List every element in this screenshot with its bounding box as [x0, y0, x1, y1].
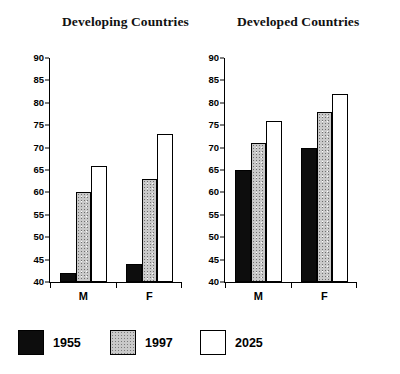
y-tick-label-developed-45: 45: [208, 255, 219, 265]
y-tick-label-developed-90: 90: [208, 53, 219, 63]
bar-developed-m-2025: [266, 121, 282, 282]
chart-title-developed: Developed Countries: [237, 14, 359, 30]
y-tick-label-developing-65: 65: [33, 165, 44, 175]
x-axis-labels-developed: MF: [225, 290, 357, 306]
bar-group-developing-f: [116, 58, 182, 282]
bar-group-developed-m: [225, 58, 291, 282]
y-tick-mark-developed-55: [220, 214, 224, 215]
x-tick-mark-developing-1: [116, 283, 117, 288]
plot-area-developing: 4045505560657075808590 MF: [22, 58, 185, 290]
x-tick-label-developed-f: F: [321, 290, 328, 302]
y-tick-label-developing-75: 75: [33, 120, 44, 130]
legend-item-2025: 2025: [200, 330, 263, 355]
bar-developed-m-1997: [251, 143, 267, 282]
y-tick-label-developed-70: 70: [208, 143, 219, 153]
chart-panel-developing: 4045505560657075808590 MF: [22, 58, 185, 290]
y-tick-label-developing-85: 85: [33, 76, 44, 86]
x-tick-mark-developed-1: [291, 283, 292, 288]
legend-item-1955: 1955: [18, 330, 81, 355]
y-tick-mark-developing-55: [45, 214, 49, 215]
x-tick-mark-developing-2: [181, 283, 182, 288]
chart-legend: 1955 1997 2025: [0, 330, 400, 360]
legend-swatch-1997: [110, 330, 136, 355]
y-tick-mark-developing-45: [45, 259, 49, 260]
legend-swatch-2025: [200, 330, 226, 355]
y-tick-label-developing-45: 45: [33, 255, 44, 265]
bar-developed-m-1955: [235, 170, 251, 282]
chart-titles-row: Developing Countries Developed Countries: [0, 14, 400, 34]
x-tick-label-developing-m: M: [79, 290, 88, 302]
x-tick-mark-developed-2: [356, 283, 357, 288]
plot-area-developed: 4045505560657075808590 MF: [197, 58, 360, 290]
y-tick-mark-developed-70: [220, 147, 224, 148]
bar-developed-f-1997: [317, 112, 333, 282]
y-tick-mark-developed-75: [220, 125, 224, 126]
y-tick-label-developed-50: 50: [208, 232, 219, 242]
bar-developing-m-1955: [60, 273, 76, 282]
y-tick-label-developing-50: 50: [33, 232, 44, 242]
bar-developing-f-1997: [142, 179, 158, 282]
y-tick-label-developing-55: 55: [33, 210, 44, 220]
y-axis-labels-developing: 4045505560657075808590: [22, 58, 44, 290]
y-tick-mark-developed-40: [220, 282, 224, 283]
y-tick-mark-developed-50: [220, 237, 224, 238]
y-tick-mark-developing-85: [45, 80, 49, 81]
y-tick-label-developing-40: 40: [33, 277, 44, 287]
legend-swatch-1955: [18, 330, 44, 355]
x-tick-label-developing-f: F: [146, 290, 153, 302]
y-tick-mark-developed-65: [220, 170, 224, 171]
bar-developing-m-1997: [76, 192, 92, 282]
chart-panel-developed: 4045505560657075808590 MF: [197, 58, 360, 290]
x-axis-labels-developing: MF: [50, 290, 182, 306]
y-tick-label-developed-55: 55: [208, 210, 219, 220]
bar-developing-m-2025: [91, 166, 107, 282]
legend-label-2025: 2025: [235, 336, 263, 350]
y-tick-mark-developed-90: [220, 58, 224, 59]
bar-developed-f-2025: [332, 94, 348, 282]
y-tick-label-developing-70: 70: [33, 143, 44, 153]
bar-developing-f-1955: [126, 264, 142, 282]
x-tick-mark-developing-0: [50, 283, 51, 288]
y-tick-mark-developed-85: [220, 80, 224, 81]
x-tick-mark-developed-0: [225, 283, 226, 288]
bar-group-developed-f: [291, 58, 357, 282]
y-tick-mark-developed-60: [220, 192, 224, 193]
y-tick-label-developed-80: 80: [208, 98, 219, 108]
bars-container-developing: [50, 58, 182, 282]
y-tick-mark-developing-80: [45, 102, 49, 103]
y-tick-label-developed-40: 40: [208, 277, 219, 287]
y-tick-mark-developing-65: [45, 170, 49, 171]
y-tick-label-developed-85: 85: [208, 76, 219, 86]
y-axis-labels-developed: 4045505560657075808590: [197, 58, 219, 290]
y-tick-label-developing-60: 60: [33, 188, 44, 198]
legend-item-1997: 1997: [110, 330, 173, 355]
y-tick-mark-developed-45: [220, 259, 224, 260]
y-tick-mark-developed-80: [220, 102, 224, 103]
bar-developing-f-2025: [157, 134, 173, 282]
y-tick-mark-developing-50: [45, 237, 49, 238]
y-tick-mark-developing-70: [45, 147, 49, 148]
bars-container-developed: [225, 58, 357, 282]
chart-title-developing: Developing Countries: [62, 14, 189, 30]
legend-label-1997: 1997: [145, 336, 173, 350]
y-tick-mark-developing-40: [45, 282, 49, 283]
y-tick-label-developing-90: 90: [33, 53, 44, 63]
y-tick-label-developed-60: 60: [208, 188, 219, 198]
y-tick-mark-developing-60: [45, 192, 49, 193]
x-tick-label-developed-m: M: [254, 290, 263, 302]
y-tick-mark-developing-90: [45, 58, 49, 59]
y-tick-label-developed-65: 65: [208, 165, 219, 175]
bar-developed-f-1955: [301, 148, 317, 282]
y-tick-label-developed-75: 75: [208, 120, 219, 130]
bar-group-developing-m: [50, 58, 116, 282]
legend-label-1955: 1955: [53, 336, 81, 350]
y-tick-label-developing-80: 80: [33, 98, 44, 108]
y-tick-mark-developing-75: [45, 125, 49, 126]
